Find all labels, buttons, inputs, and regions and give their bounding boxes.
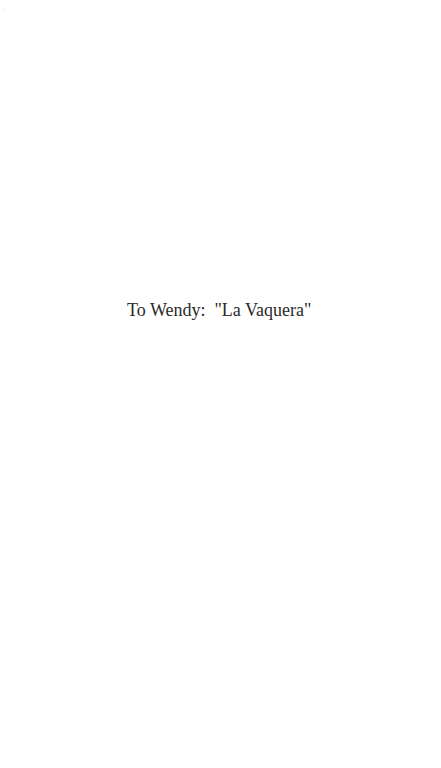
scan-artifact <box>2 8 5 11</box>
dedication-text: To Wendy: "La Vaquera" <box>127 300 311 321</box>
document-page: To Wendy: "La Vaquera" <box>0 0 441 768</box>
